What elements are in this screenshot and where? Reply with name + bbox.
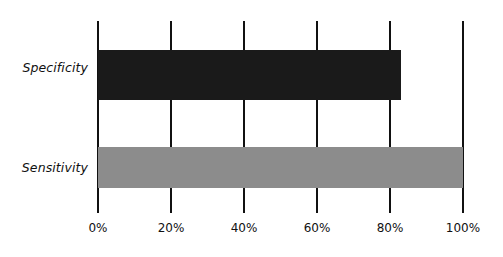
bar-specificity bbox=[98, 50, 401, 100]
xtick-label-60: 60% bbox=[287, 221, 347, 235]
bar-sensitivity bbox=[98, 147, 463, 188]
category-label-specificity: Specificity bbox=[0, 60, 88, 75]
xtick-label-40: 40% bbox=[214, 221, 274, 235]
plot-area: Specificity Sensitivity 0% 20% 40% 60% 8… bbox=[0, 0, 503, 257]
xtick-label-80: 80% bbox=[360, 221, 420, 235]
xtick-label-20: 20% bbox=[141, 221, 201, 235]
xtick-label-0: 0% bbox=[68, 221, 128, 235]
xtick-label-100: 100% bbox=[433, 221, 493, 235]
category-label-sensitivity: Sensitivity bbox=[0, 160, 88, 175]
bar-chart: Specificity Sensitivity 0% 20% 40% 60% 8… bbox=[0, 0, 503, 257]
